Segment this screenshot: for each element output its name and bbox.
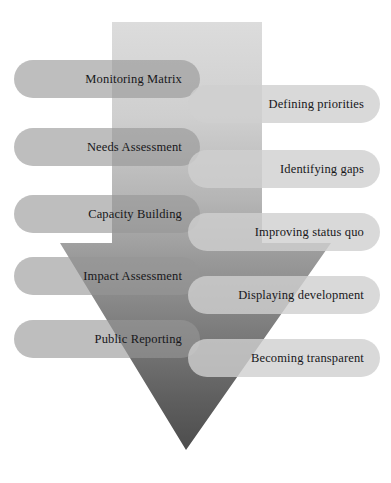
outcome-label: Displaying development (238, 289, 364, 302)
outcome-label: Defining priorities (268, 98, 364, 111)
outcome-label: Becoming transparent (251, 352, 364, 365)
stage-label: Monitoring Matrix (85, 73, 182, 86)
outcome-pill-improving-status-quo[interactable]: Improving status quo (188, 213, 380, 251)
outcome-label: Identifying gaps (280, 163, 364, 176)
stage-pill-impact-assessment[interactable]: Impact Assessment (14, 257, 200, 295)
outcome-pill-displaying-development[interactable]: Displaying development (188, 276, 380, 314)
outcome-label: Improving status quo (255, 226, 364, 239)
stage-label: Capacity Building (88, 208, 182, 221)
stage-label: Impact Assessment (83, 270, 182, 283)
stage-label: Public Reporting (95, 333, 182, 346)
stage-pill-monitoring-matrix[interactable]: Monitoring Matrix (14, 60, 200, 98)
outcome-pill-becoming-transparent[interactable]: Becoming transparent (188, 339, 380, 377)
stage-label: Needs Assessment (87, 141, 182, 154)
stage-pill-needs-assessment[interactable]: Needs Assessment (14, 128, 200, 166)
funnel-diagram: Monitoring Matrix Needs Assessment Capac… (0, 0, 391, 483)
stage-pill-capacity-building[interactable]: Capacity Building (14, 195, 200, 233)
stage-pill-public-reporting[interactable]: Public Reporting (14, 320, 200, 358)
outcome-pill-defining-priorities[interactable]: Defining priorities (188, 85, 380, 123)
outcome-pill-identifying-gaps[interactable]: Identifying gaps (188, 150, 380, 188)
